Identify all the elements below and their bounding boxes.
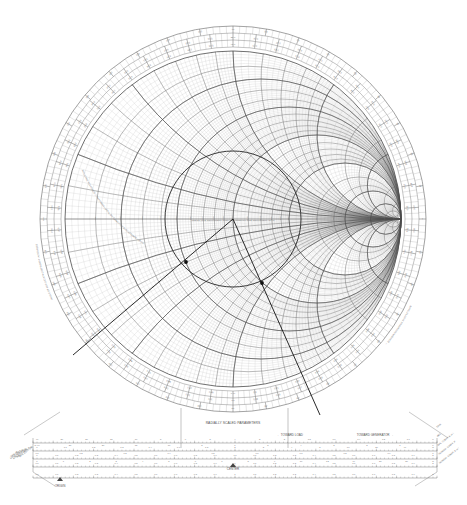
smith-chart-page: 0.10.20.30.40.50.60.70.80.91.01.21.41.61… [0,0,467,505]
origin-label: ORIGIN [55,484,66,488]
wavelengths-toward-load-tick: 0.49 [231,392,236,394]
wavelengths-toward-generator-tick: 0.25 [230,37,235,39]
wavelengths-toward-load-tick: 0.24 [230,44,235,46]
marker-z-load[interactable] [184,260,188,264]
toward-generator-label: TOWARD GENERATOR → [357,433,394,437]
smith-chart-figure: 0.10.20.30.40.50.60.70.80.91.01.21.41.61… [0,0,467,505]
marker-z-rotated[interactable] [260,281,264,285]
center-label: CENTER [227,467,240,471]
radial-scales-title: RADIALLY SCALED PARAMETERS [206,421,261,425]
toward-load-label: ← TOWARD LOAD [277,433,304,437]
